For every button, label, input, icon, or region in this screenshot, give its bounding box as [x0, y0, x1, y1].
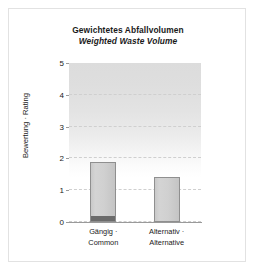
tick-mark-3	[66, 127, 69, 128]
tick-mark-1	[66, 190, 69, 191]
plot-area: 0 1 2 3 4 5	[69, 63, 201, 222]
x-tick-label-alternative-line2: Alternative	[124, 238, 210, 249]
gridline-0: 0	[69, 221, 201, 222]
chart-title: Gewichtetes Abfallvolumen	[9, 25, 247, 35]
bar-common-base-segment	[91, 216, 115, 221]
y-tick-label-1: 1	[60, 186, 64, 195]
y-tick-label-0: 0	[60, 218, 64, 227]
y-tick-label-3: 3	[60, 122, 64, 131]
tick-mark-2	[66, 158, 69, 159]
x-tick-label-alternative-line1: Alternativ ·	[124, 227, 210, 238]
y-axis-title: Bewertung · Rating	[21, 66, 30, 186]
chart-subtitle: Weighted Waste Volume	[9, 36, 247, 46]
tick-mark-0	[66, 222, 69, 223]
bar-alternative[interactable]	[154, 177, 180, 222]
gridline-1: 1	[69, 189, 201, 190]
gridline-4: 4	[69, 94, 201, 95]
x-tick-label-alternative: Alternativ · Alternative	[124, 227, 210, 248]
chart-figure-frame: Gewichtetes Abfallvolumen Weighted Waste…	[8, 8, 246, 262]
x-axis-line	[69, 222, 202, 223]
tick-mark-4	[66, 95, 69, 96]
tick-mark-5	[66, 63, 69, 64]
gridline-2: 2	[69, 157, 201, 158]
y-tick-label-5: 5	[60, 59, 64, 68]
gridline-3: 3	[69, 126, 201, 127]
y-tick-label-2: 2	[60, 154, 64, 163]
y-tick-label-4: 4	[60, 90, 64, 99]
bar-common[interactable]	[90, 162, 116, 222]
